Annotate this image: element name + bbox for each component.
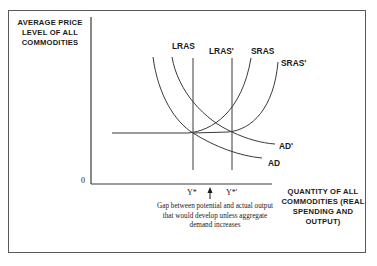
y-axis-label: AVERAGE PRICE LEVEL OF ALL COMMODITIES <box>14 18 86 48</box>
x-axis-label: QUANTITY OF ALL COMMODITIES (REAL SPENDI… <box>276 187 370 227</box>
sras-prime-curve <box>193 62 278 133</box>
ad-curve <box>153 57 262 158</box>
ad-prime-curve <box>172 57 275 144</box>
gap-annotation: Gap between potential and actual output … <box>155 202 275 231</box>
origin-label: 0 <box>81 176 85 185</box>
sras-label: SRAS <box>251 46 274 56</box>
sras-prime-label: SRAS' <box>281 58 306 68</box>
y-star-prime-tick-label: Y*' <box>226 188 237 197</box>
ad-label: AD <box>268 158 280 168</box>
ad-prime-label: AD' <box>279 141 293 151</box>
lras-prime-label: LRAS' <box>209 46 234 56</box>
gap-arrow-icon <box>208 187 213 193</box>
lras-label: LRAS <box>172 41 195 51</box>
sras-curve <box>112 58 251 133</box>
y-star-tick-label: Y* <box>187 188 197 197</box>
